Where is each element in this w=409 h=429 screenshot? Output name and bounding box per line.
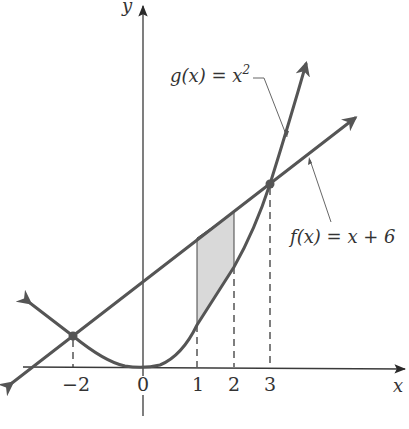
tick-label-neg2: −2 — [62, 373, 90, 395]
shaded-region — [197, 212, 234, 325]
x-axis-label: x — [393, 375, 403, 396]
tick-label-2: 2 — [228, 373, 240, 395]
f-label-leader — [310, 160, 331, 222]
function-graph: y x −2 0 1 2 3 g(x) = x2 f(x) = x + 6 — [0, 0, 409, 429]
tick-label-3: 3 — [264, 373, 276, 395]
f-label: f(x) = x + 6 — [288, 226, 396, 247]
tick-label-0: 0 — [137, 373, 149, 395]
intersection-point-3 — [266, 180, 275, 189]
parabola-g — [30, 64, 306, 367]
line-f — [12, 118, 355, 383]
tick-label-1: 1 — [192, 373, 204, 395]
g-label: g(x) = x2 — [170, 63, 250, 86]
intersection-point-neg2 — [69, 332, 78, 341]
x-axis — [23, 367, 405, 369]
g-label-leader — [253, 78, 287, 137]
y-axis-label: y — [121, 0, 133, 16]
